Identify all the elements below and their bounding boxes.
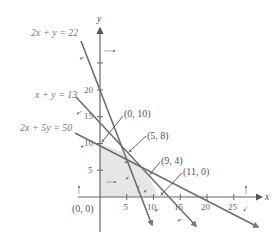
pointer-11-0	[161, 173, 182, 195]
linear-programming-graph: x y 5 10 15 20 25 5 10 15 20 2x + y = 22…	[0, 0, 279, 238]
x-tick-10: 10	[147, 202, 157, 212]
y-tick-5: 5	[88, 165, 93, 175]
x-tick-20: 20	[201, 202, 211, 212]
pointer-5-8	[129, 136, 146, 152]
label-x-plus-y-13: x + y = 13	[34, 89, 77, 100]
label-2x-plus-5y-50: 2x + 5y = 50	[20, 122, 72, 133]
vertex-label-0-10: (0, 10)	[124, 108, 151, 120]
x-axis-label: x	[264, 191, 270, 202]
pointer-9-4	[150, 162, 160, 174]
x-tick-25: 25	[228, 202, 238, 212]
y-tick-20: 20	[84, 85, 94, 95]
vertex-label-5-8: (5, 8)	[147, 130, 169, 142]
label-2x-plus-y-22: 2x + y = 22	[31, 27, 78, 38]
x-tick-5: 5	[124, 202, 129, 212]
vertex-label-11-0: (11, 0)	[183, 166, 209, 178]
y-tick-15: 15	[84, 111, 94, 121]
y-axis-label: y	[96, 13, 102, 24]
vertex-label-9-4: (9, 4)	[161, 155, 183, 167]
vertex-label-0-0: (0, 0)	[72, 203, 94, 215]
